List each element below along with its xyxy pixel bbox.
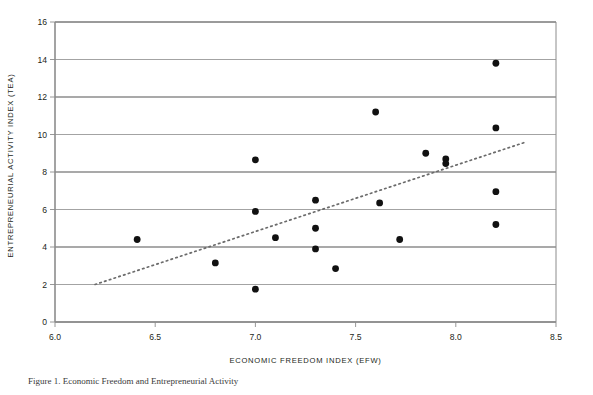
data-point	[212, 260, 219, 267]
data-point	[252, 208, 259, 215]
data-point	[492, 125, 499, 132]
plot-area	[0, 0, 593, 395]
data-point	[252, 156, 259, 163]
tick-marks	[50, 22, 556, 327]
data-point	[312, 245, 319, 252]
data-point	[492, 60, 499, 67]
data-point	[376, 200, 383, 207]
data-point	[252, 286, 259, 293]
data-point	[312, 225, 319, 232]
data-point	[372, 109, 379, 116]
data-point	[332, 265, 339, 272]
data-point	[442, 160, 449, 167]
data-point	[396, 236, 403, 243]
figure-caption: Figure 1. Economic Freedom and Entrepren…	[28, 376, 238, 386]
data-point	[272, 234, 279, 241]
trendline-path	[95, 142, 526, 285]
data-point	[312, 197, 319, 204]
data-point	[492, 188, 499, 195]
data-point	[422, 150, 429, 157]
trendline	[95, 142, 526, 285]
data-points	[134, 60, 500, 293]
data-point	[492, 221, 499, 228]
gridlines	[55, 22, 556, 322]
scatter-chart-figure: ENTREPRENEURIAL ACTIVITY INDEX (TEA) 024…	[0, 0, 593, 395]
data-point	[134, 236, 141, 243]
x-axis-title: ECONOMIC FREEDOM INDEX (EFW)	[55, 356, 556, 365]
